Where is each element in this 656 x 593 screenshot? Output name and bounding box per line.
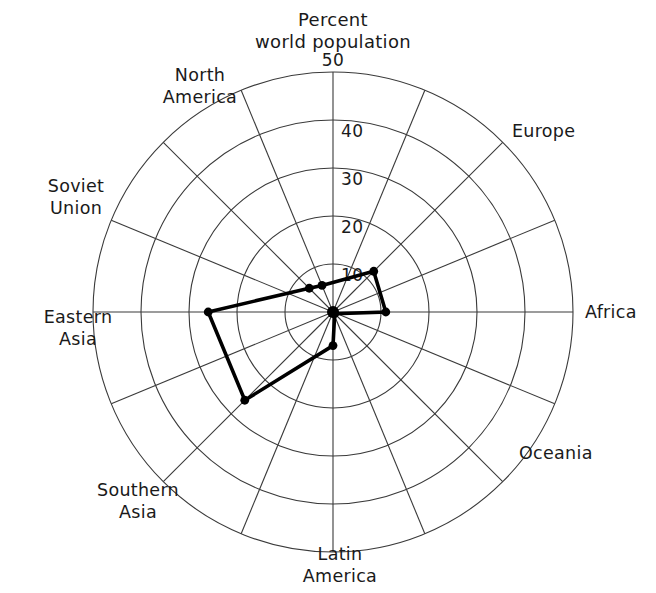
- grid-spoke--67.5: [333, 312, 425, 534]
- label-axis-latin-america: LatinAmerica: [303, 544, 377, 586]
- label-line: Oceania: [519, 443, 593, 463]
- chart-center-marker: [327, 306, 339, 318]
- data-point-eastern-asia: [204, 308, 213, 317]
- label-line: Africa: [585, 302, 637, 322]
- grid-spoke-112.5: [241, 90, 333, 312]
- grid-spoke--22.5: [333, 312, 555, 404]
- data-point-europe: [369, 267, 378, 276]
- label-axis-eastern-asia: EasternAsia: [44, 307, 113, 349]
- label-line: Latin: [318, 544, 363, 564]
- label-line: Asia: [119, 502, 157, 522]
- data-point-southern-asia: [240, 396, 249, 405]
- data-point-north-america: [318, 281, 327, 290]
- label-line: North: [175, 65, 225, 85]
- radar-chart: 1020304050 Percentworld populationEurope…: [0, 0, 656, 593]
- label-line: world population: [255, 31, 411, 52]
- label-line: America: [303, 566, 377, 586]
- series-polygon-0: [208, 271, 386, 400]
- label-axis-europe: Europe: [512, 121, 575, 141]
- radial-tick-label-40: 40: [341, 121, 363, 141]
- label-line: America: [163, 87, 237, 107]
- grid-spoke-22.5: [333, 220, 555, 312]
- radial-tick-label-20: 20: [341, 217, 363, 237]
- radar-chart-canvas: 1020304050 Percentworld populationEurope…: [0, 0, 656, 593]
- data-point-soviet-union: [305, 284, 314, 293]
- data-point-africa: [381, 308, 390, 317]
- grid-spoke--45: [333, 312, 503, 482]
- grid-spoke-157.5: [111, 220, 333, 312]
- data-point-latin-america: [329, 341, 338, 350]
- radial-tick-label-50: 50: [322, 50, 344, 70]
- label-axis-north-america: NorthAmerica: [163, 65, 237, 107]
- radial-tick-label-30: 30: [341, 169, 363, 189]
- label-axis-soviet-union: SovietUnion: [48, 176, 104, 218]
- label-axis-top: Percentworld population: [255, 9, 411, 52]
- label-axis-africa: Africa: [585, 302, 637, 322]
- label-line: Percent: [298, 9, 368, 30]
- label-line: Asia: [59, 329, 97, 349]
- label-line: Europe: [512, 121, 575, 141]
- grid-spoke--112.5: [241, 312, 333, 534]
- category-axis-labels: Percentworld populationEuropeAfricaOcean…: [44, 9, 637, 586]
- label-axis-oceania: Oceania: [519, 443, 593, 463]
- label-axis-southern-asia: SouthernAsia: [97, 480, 179, 522]
- radial-tick-labels: 1020304050: [322, 50, 364, 285]
- label-line: Eastern: [44, 307, 113, 327]
- label-line: Southern: [97, 480, 179, 500]
- data-series-polygon: [208, 271, 386, 400]
- label-line: Union: [50, 198, 102, 218]
- grid-spoke--157.5: [111, 312, 333, 404]
- label-line: Soviet: [48, 176, 104, 196]
